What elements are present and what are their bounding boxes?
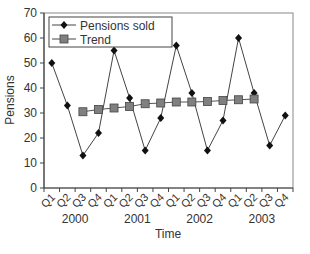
chart-legend: Pensions soldTrend <box>49 17 172 47</box>
pensions-line-chart: 010203040506070Q1Q2Q3Q4Q1Q2Q3Q4Q1Q2Q3Q4Q… <box>0 0 310 254</box>
trend-marker <box>188 98 196 106</box>
legend-square-marker-icon <box>60 35 68 43</box>
trend-marker <box>141 100 149 108</box>
trend-marker <box>79 108 87 116</box>
y-axis-label: Pensions <box>3 75 17 124</box>
pensions-sold-marker <box>204 147 211 155</box>
y-tick-label: 70 <box>24 6 38 20</box>
y-tick-label: 10 <box>24 156 38 170</box>
year-label: 2002 <box>186 212 213 226</box>
y-tick-label: 0 <box>30 181 37 195</box>
legend-label: Trend <box>80 33 111 47</box>
trend-marker <box>157 99 165 107</box>
trend-marker <box>203 98 211 106</box>
pensions-sold-marker <box>64 102 71 110</box>
trend-marker <box>94 106 102 114</box>
pensions-sold-marker <box>188 89 195 97</box>
pensions-sold-marker <box>282 112 289 120</box>
pensions-sold-marker <box>111 47 118 55</box>
pensions-sold-marker <box>173 42 180 50</box>
trend-marker <box>235 96 243 104</box>
pensions-sold-marker <box>142 147 149 155</box>
trend-marker <box>172 98 180 106</box>
pensions-sold-marker <box>235 34 242 42</box>
x-tick-label: Q4 <box>272 191 291 210</box>
year-label: 2001 <box>124 212 151 226</box>
year-label: 2000 <box>62 212 89 226</box>
legend-label: Pensions sold <box>80 19 155 33</box>
year-label: 2003 <box>249 212 276 226</box>
pensions-sold-marker <box>266 142 273 150</box>
pensions-sold-marker <box>48 59 55 67</box>
pensions-sold-marker <box>157 114 164 122</box>
plot-area <box>48 34 288 160</box>
trend-line <box>83 99 254 112</box>
trend-marker <box>250 95 258 103</box>
y-tick-label: 30 <box>24 106 38 120</box>
trend-marker <box>126 103 134 111</box>
y-tick-label: 50 <box>24 56 38 70</box>
y-tick-label: 20 <box>24 131 38 145</box>
y-tick-label: 40 <box>24 81 38 95</box>
trend-marker <box>219 97 227 105</box>
x-axis-label: Time <box>155 227 182 241</box>
trend-marker <box>110 104 118 112</box>
pensions-sold-marker <box>219 117 226 125</box>
pensions-sold-marker <box>126 94 133 102</box>
y-tick-label: 60 <box>24 31 38 45</box>
